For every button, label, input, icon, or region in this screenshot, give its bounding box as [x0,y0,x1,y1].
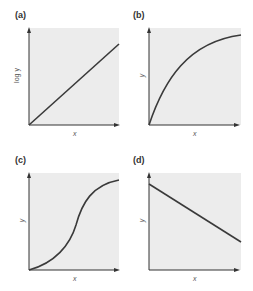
ylabel-a: log y [13,68,20,83]
ylabel-b: y [138,74,145,78]
xlabel-b: x [193,130,197,137]
panel-d: (d) y x [126,145,253,291]
panel-c: (c) y x [0,145,126,291]
panel-b: (b) y x [126,0,253,145]
xlabel-a: x [73,130,77,137]
panel-a: (a) log y x [0,0,126,145]
ylabel-c: y [18,219,25,223]
xlabel-c: x [73,275,77,282]
xlabel-d: x [193,275,197,282]
ylabel-d: y [138,219,145,223]
